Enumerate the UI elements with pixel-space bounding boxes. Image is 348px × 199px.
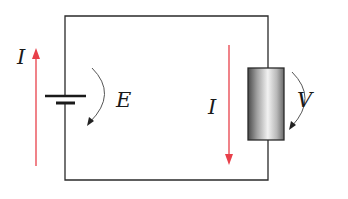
battery-symbol <box>45 96 86 103</box>
current-right-label: I <box>207 95 217 119</box>
voltage-label: V <box>297 88 314 112</box>
circuit-diagram: E I V I <box>0 0 348 199</box>
emf-label: E <box>115 88 131 112</box>
resistor-symbol <box>248 68 284 140</box>
current-left-label: I <box>16 45 26 69</box>
circuit-wire <box>65 16 268 180</box>
current-arrow-down-icon <box>225 45 233 165</box>
current-arrow-up-icon <box>32 48 40 166</box>
emf-arrow-icon <box>87 68 105 126</box>
